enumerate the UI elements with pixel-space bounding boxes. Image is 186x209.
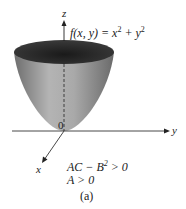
paraboloid-opening <box>14 40 114 64</box>
origin-label: 0 <box>58 120 64 131</box>
x-axis <box>44 131 64 160</box>
caption: (a) <box>80 190 93 202</box>
z-axis-label: z <box>62 8 66 19</box>
condition-a-positive: A > 0 <box>67 174 94 186</box>
condition-determinant: AC − B2 > 0 <box>67 161 128 173</box>
x-axis-label: x <box>36 164 41 175</box>
y-axis-label: y <box>172 125 177 136</box>
function-label: f(x, y) = x2 + y2 <box>70 27 145 39</box>
